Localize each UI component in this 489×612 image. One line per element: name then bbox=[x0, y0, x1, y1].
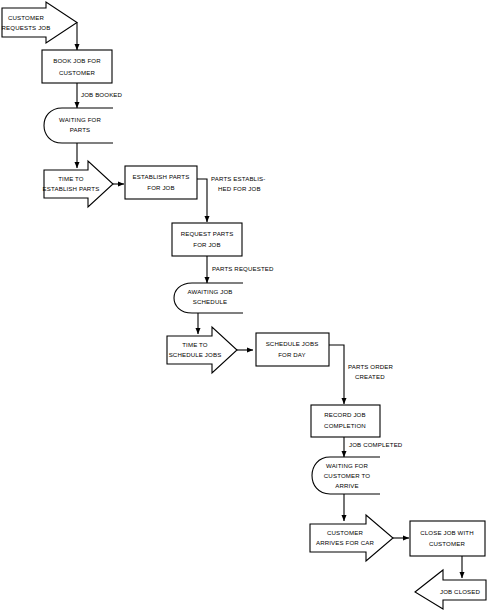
flowchart-canvas: CUSTOMER REQUESTS JOB BOOK JOB FOR CUSTO… bbox=[0, 0, 489, 612]
node-label-line2: REQUESTS JOB bbox=[2, 24, 51, 31]
node-label-line1: SCHEDULE JOBS bbox=[266, 340, 319, 347]
arrow-right-shape bbox=[44, 161, 113, 207]
connector-parts-established bbox=[197, 179, 207, 222]
node-label-line1: AWAITING JOB bbox=[187, 288, 232, 295]
node-close-job-with-customer[interactable]: CLOSE JOB WITH CUSTOMER bbox=[410, 521, 485, 556]
node-label-line1: WAITING FOR bbox=[326, 462, 368, 469]
edge-label-parts-established-line2: HED FOR JOB bbox=[218, 185, 261, 192]
node-label-line2: CUSTOMER TO bbox=[324, 472, 370, 479]
node-label-line2: FOR DAY bbox=[278, 351, 306, 358]
node-establish-parts-for-job[interactable]: ESTABLISH PARTS FOR JOB bbox=[125, 166, 197, 199]
edge-label-job-completed: JOB COMPLETED bbox=[349, 441, 403, 448]
edge-label-parts-requested: PARTS REQUESTED bbox=[212, 265, 274, 272]
node-label-line1: WAITING FOR bbox=[59, 116, 101, 123]
node-waiting-for-customer-to-arrive[interactable]: WAITING FOR CUSTOMER TO ARRIVE bbox=[312, 457, 380, 494]
node-label-line2: SCHEDULE JOBS bbox=[169, 351, 222, 358]
node-label-line1: CUSTOMER bbox=[327, 529, 363, 536]
node-customer-arrives-for-car[interactable]: CUSTOMER ARRIVES FOR CAR bbox=[310, 515, 393, 561]
node-label-line1: ESTABLISH PARTS bbox=[133, 173, 190, 180]
node-label-line2: COMPLETION bbox=[324, 422, 366, 429]
rectangle-shape bbox=[256, 333, 329, 366]
node-book-job-for-customer[interactable]: BOOK JOB FOR CUSTOMER bbox=[42, 50, 112, 83]
edge-label-parts-order-created-line2: CREATED bbox=[355, 373, 385, 380]
node-label-line2: CUSTOMER bbox=[429, 540, 465, 547]
node-waiting-for-parts[interactable]: WAITING FOR PARTS bbox=[44, 108, 113, 143]
arrow-right-shape bbox=[167, 327, 237, 373]
rectangle-shape bbox=[311, 405, 380, 437]
rectangle-shape bbox=[410, 521, 485, 556]
node-label-line2: SCHEDULE bbox=[193, 298, 227, 305]
node-label-line1: RECORD JOB bbox=[324, 411, 365, 418]
node-label-line1: BOOK JOB FOR bbox=[53, 57, 101, 64]
arrow-right-shape bbox=[310, 515, 393, 561]
node-customer-requests-job[interactable]: CUSTOMER REQUESTS JOB bbox=[2, 2, 77, 43]
connector-parts-order-created bbox=[329, 345, 344, 404]
node-label-line1: JOB CLOSED bbox=[440, 588, 481, 595]
arrow-right-shape bbox=[2, 2, 77, 43]
node-record-job-completion[interactable]: RECORD JOB COMPLETION bbox=[311, 405, 380, 437]
node-label-line2: ESTABLISH PARTS bbox=[43, 185, 100, 192]
node-request-parts-for-job[interactable]: REQUEST PARTS FOR JOB bbox=[172, 223, 242, 256]
node-label-line2: ARRIVES FOR CAR bbox=[316, 539, 375, 546]
node-label-line1: TIME TO bbox=[182, 341, 208, 348]
rectangle-shape bbox=[125, 166, 197, 199]
node-job-closed[interactable]: JOB CLOSED bbox=[415, 570, 486, 609]
node-label-line2: FOR JOB bbox=[147, 184, 174, 191]
node-schedule-jobs-for-day[interactable]: SCHEDULE JOBS FOR DAY bbox=[256, 333, 329, 366]
edge-label-parts-established-line1: PARTS ESTABLIS- bbox=[211, 175, 265, 182]
node-label-line1: CLOSE JOB WITH bbox=[420, 529, 474, 536]
node-time-to-schedule-jobs[interactable]: TIME TO SCHEDULE JOBS bbox=[167, 327, 237, 373]
edge-label-job-booked: JOB BOOKED bbox=[81, 91, 123, 98]
node-label-line2: CUSTOMER bbox=[59, 69, 95, 76]
node-label-line2: FOR JOB bbox=[193, 241, 220, 248]
rectangle-shape bbox=[172, 223, 242, 256]
node-label-line2: PARTS bbox=[70, 126, 91, 133]
node-label-line3: ARRIVE bbox=[335, 482, 359, 489]
node-label-line1: REQUEST PARTS bbox=[181, 230, 234, 237]
flowchart-diagram: CUSTOMER REQUESTS JOB BOOK JOB FOR CUSTO… bbox=[0, 0, 489, 612]
node-time-to-establish-parts[interactable]: TIME TO ESTABLISH PARTS bbox=[43, 161, 113, 207]
node-label-line1: TIME TO bbox=[58, 175, 84, 182]
node-awaiting-job-schedule[interactable]: AWAITING JOB SCHEDULE bbox=[174, 283, 243, 313]
edge-label-parts-order-created-line1: PARTS ORDER bbox=[348, 363, 394, 370]
rectangle-shape bbox=[42, 50, 112, 83]
node-label-line1: CUSTOMER bbox=[8, 14, 44, 21]
